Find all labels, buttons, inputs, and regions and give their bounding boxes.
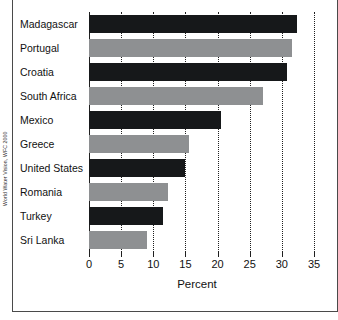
bar — [89, 111, 221, 129]
bar-chart-plot: 05101520253035 MadagascarPortugalCroatia… — [13, 0, 338, 312]
bar-row: Greece — [13, 132, 338, 156]
bar-row: Turkey — [13, 204, 338, 228]
bar-row: Mexico — [13, 108, 338, 132]
bar-row: Croatia — [13, 60, 338, 84]
bar-row: Madagascar — [13, 12, 338, 36]
bar — [89, 207, 163, 225]
x-tick-35 — [314, 252, 315, 257]
bar-category-label: Sri Lanka — [13, 228, 83, 252]
x-tick-label-15: 15 — [179, 258, 191, 270]
x-tick-label-25: 25 — [244, 258, 256, 270]
x-axis-title: Percent — [13, 278, 338, 290]
bar — [89, 135, 189, 153]
bar-category-label: Greece — [13, 132, 83, 156]
bar-row: Romania — [13, 180, 338, 204]
bar-row: Portugal — [13, 36, 338, 60]
bar — [89, 39, 292, 57]
bar-category-label: United States — [13, 156, 83, 180]
bar-category-label: Turkey — [13, 204, 83, 228]
bar-category-label: Madagascar — [13, 12, 83, 36]
bar-row: United States — [13, 156, 338, 180]
bar — [89, 231, 147, 249]
x-tick-label-30: 30 — [276, 258, 288, 270]
x-tick-30 — [282, 252, 283, 257]
x-tick-label-35: 35 — [308, 258, 320, 270]
x-tick-10 — [153, 252, 154, 257]
x-tick-label-20: 20 — [211, 258, 223, 270]
figure-container: World Water Vision, WFC 2000 05101520253… — [0, 0, 338, 320]
bar-category-label: Portugal — [13, 36, 83, 60]
bar-category-label: Mexico — [13, 108, 83, 132]
x-tick-20 — [218, 252, 219, 257]
bar — [89, 15, 297, 33]
bar-category-label: Croatia — [13, 60, 83, 84]
x-tick-25 — [250, 252, 251, 257]
x-tick-label-10: 10 — [147, 258, 159, 270]
bar-category-label: South Africa — [13, 84, 83, 108]
bar — [89, 183, 168, 201]
source-credit: World Water Vision, WFC 2000 — [0, 96, 10, 206]
chart-frame: 05101520253035 MadagascarPortugalCroatia… — [12, 0, 338, 312]
x-tick-label-5: 5 — [118, 258, 124, 270]
x-tick-15 — [185, 252, 186, 257]
bar — [89, 63, 287, 81]
bar-category-label: Romania — [13, 180, 83, 204]
x-tick-0 — [89, 252, 90, 257]
x-tick-5 — [121, 252, 122, 257]
bar-row: South Africa — [13, 84, 338, 108]
bar — [89, 87, 263, 105]
bar — [89, 159, 185, 177]
x-tick-label-0: 0 — [86, 258, 92, 270]
bar-row: Sri Lanka — [13, 228, 338, 252]
x-axis-title-label: Percent — [177, 278, 217, 290]
